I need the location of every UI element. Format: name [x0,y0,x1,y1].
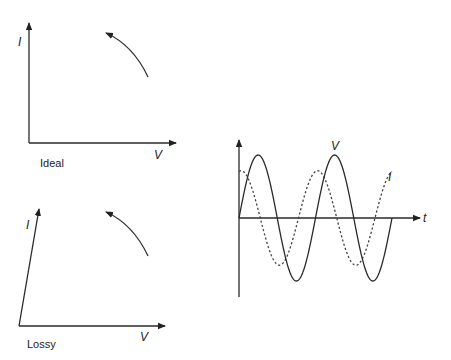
ideal-iv-curve-arrow [106,33,148,77]
ideal-y-axis-label: I [18,35,22,49]
waveform-time-label: t [423,211,427,225]
figure: I V Ideal I V Lossy t V I [0,0,451,360]
lossy-iv-curve-arrow [106,212,148,256]
ideal-caption: Ideal [40,157,64,169]
waveform-panel: t V I [239,139,427,297]
voltage-label: V [331,139,340,153]
lossy-caption: Lossy [27,338,56,350]
lossy-panel: I V Lossy [19,209,165,350]
lossy-y-axis-label: I [26,218,30,232]
ideal-panel: I V Ideal [18,23,176,169]
ideal-x-axis-label: V [154,148,163,162]
current-label: I [388,170,392,184]
lossy-x-axis-label: V [140,330,149,344]
